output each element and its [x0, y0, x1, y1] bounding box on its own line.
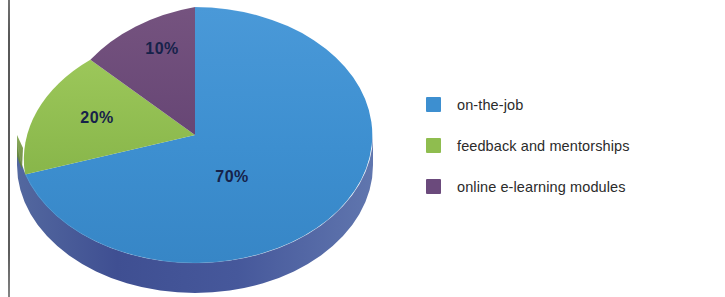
pie-chart-figure: 70% 20% 10% on-the-job feedback and ment…	[0, 0, 725, 297]
slice-value-label-online-elearning: 10%	[145, 40, 179, 57]
legend-swatch-icon-on-the-job	[426, 97, 441, 112]
pie-svg: 70% 20% 10%	[10, 6, 388, 294]
legend-label-on-the-job: on-the-job	[457, 97, 523, 113]
legend-swatch-icon-online-elearning	[426, 179, 441, 194]
slice-value-label-on-the-job: 70%	[215, 168, 249, 185]
slice-value-label-feedback-mentorships: 20%	[80, 109, 114, 126]
pie-chart-graphic: 70% 20% 10%	[10, 6, 388, 294]
legend-label-online-elearning: online e-learning modules	[457, 179, 626, 195]
legend-label-feedback-mentorships: feedback and mentorships	[457, 138, 629, 154]
legend-item-feedback-mentorships[interactable]: feedback and mentorships	[426, 125, 716, 166]
legend-item-on-the-job[interactable]: on-the-job	[426, 84, 716, 125]
legend-swatch-icon-feedback-mentorships	[426, 138, 441, 153]
chart-legend: on-the-job feedback and mentorships onli…	[426, 84, 716, 207]
legend-item-online-elearning[interactable]: online e-learning modules	[426, 166, 716, 207]
